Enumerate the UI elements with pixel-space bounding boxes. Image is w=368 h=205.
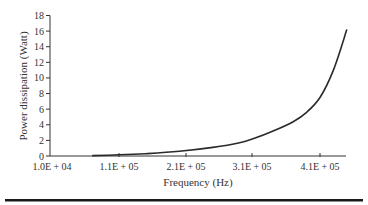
x-tick-label: 4.1E + 05 [300,161,339,172]
x-tick-label: 1.0E + 04 [32,161,71,172]
y-axis-title: Power dissipation (Watt) [17,31,30,140]
y-axis: 024681012141618 [34,10,50,162]
y-tick-label: 4 [39,119,44,130]
power-curve [92,30,347,156]
y-tick-label: 12 [34,57,44,68]
chart: 024681012141618 1.0E + 041.1E + 052.1E +… [0,0,368,205]
x-tick-label: 2.1E + 05 [166,161,205,172]
y-tick-label: 10 [34,72,44,83]
x-axis: 1.0E + 041.1E + 052.1E + 053.1E + 054.1E… [32,153,346,172]
y-tick-label: 6 [39,104,44,115]
y-tick-label: 2 [39,135,44,146]
y-tick-label: 16 [34,26,44,37]
bottom-rule [5,199,363,202]
y-tick-label: 8 [39,88,44,99]
x-tick-label: 3.1E + 05 [232,161,271,172]
y-tick-label: 14 [34,41,44,52]
x-axis-title: Frequency (Hz) [163,176,233,189]
y-tick-label: 0 [39,151,44,162]
y-tick-label: 18 [34,10,44,21]
x-tick-label: 1.1E + 05 [99,161,138,172]
